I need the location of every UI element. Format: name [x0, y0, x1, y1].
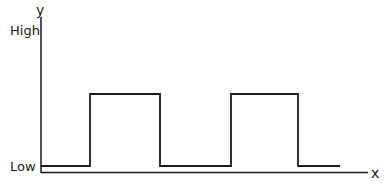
- x-axis-label: x: [371, 165, 379, 181]
- low-level-label: Low: [10, 159, 36, 174]
- y-axis-label: y: [36, 2, 44, 18]
- high-level-label: High: [10, 23, 40, 38]
- square-wave-diagram: y x High Low: [0, 0, 387, 186]
- square-wave-signal: [41, 94, 340, 166]
